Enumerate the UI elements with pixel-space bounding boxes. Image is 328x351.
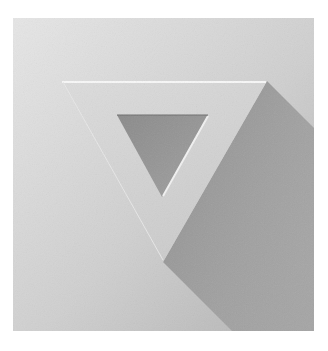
logo xyxy=(0,0,328,351)
triangle-logo-graphic xyxy=(0,0,328,351)
texture-overlay xyxy=(13,18,314,331)
